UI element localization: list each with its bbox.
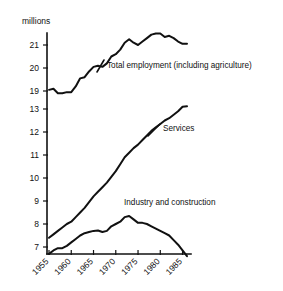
y-tick-label: 7	[34, 242, 39, 252]
leader-line-services	[148, 124, 160, 136]
x-tick-label: 1980	[141, 256, 162, 277]
x-tick-label: 1965	[74, 256, 95, 277]
y-tick-label: 19	[30, 86, 40, 96]
y-tick-label: 10	[30, 173, 40, 183]
y-tick-label: 21	[30, 40, 40, 50]
employment-line-chart: millions 21201913121110987 1955196019651…	[0, 0, 283, 291]
y-tick-label: 20	[30, 63, 40, 73]
x-tick-label: 1985	[164, 256, 185, 277]
x-tick-label: 1955	[30, 256, 51, 277]
y-tick-label: 9	[34, 196, 39, 206]
x-tick-label: 1975	[119, 256, 140, 277]
series-label-total-employment: Total employment (including agriculture)	[107, 61, 252, 70]
series-label-industry-construction: Industry and construction	[124, 198, 216, 207]
y-axis-ticks: 21201913121110987	[30, 40, 48, 252]
y-tick-label: 13	[30, 104, 40, 114]
series-label-services: Services	[163, 124, 194, 133]
y-tick-label: 11	[30, 150, 39, 160]
y-tick-label: 8	[34, 219, 39, 229]
y-tick-label: 12	[30, 127, 40, 137]
y-axis-unit-label: millions	[22, 16, 50, 26]
x-tick-label: 1970	[97, 256, 118, 277]
x-tick-label: 1960	[52, 256, 73, 277]
chart-container: millions 21201913121110987 1955196019651…	[0, 0, 283, 291]
